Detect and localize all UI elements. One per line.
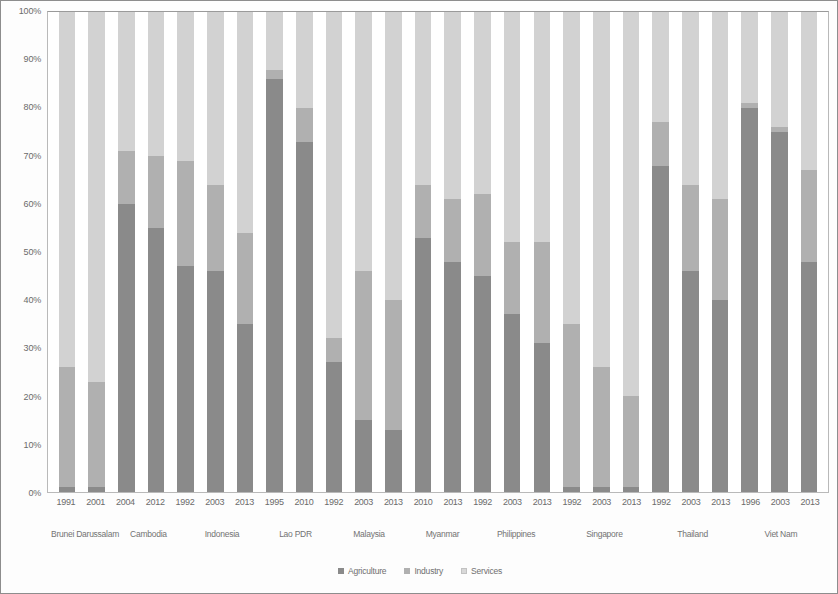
bar-segment-industry[interactable] bbox=[237, 233, 254, 324]
bar-segment-industry[interactable] bbox=[118, 151, 135, 204]
stacked-bar[interactable] bbox=[801, 12, 818, 492]
bar-segment-services[interactable] bbox=[207, 12, 224, 185]
bar-segment-services[interactable] bbox=[444, 12, 461, 199]
bar-segment-services[interactable] bbox=[237, 12, 254, 233]
bar-segment-agriculture[interactable] bbox=[237, 324, 254, 492]
bar-segment-industry[interactable] bbox=[296, 108, 313, 142]
bar-segment-industry[interactable] bbox=[563, 324, 580, 487]
bar-segment-services[interactable] bbox=[652, 12, 669, 122]
bar-segment-services[interactable] bbox=[474, 12, 491, 194]
bar-segment-agriculture[interactable] bbox=[563, 487, 580, 492]
bar-segment-agriculture[interactable] bbox=[652, 166, 669, 492]
stacked-bar[interactable] bbox=[59, 12, 76, 492]
stacked-bar[interactable] bbox=[474, 12, 491, 492]
bar-segment-agriculture[interactable] bbox=[534, 343, 551, 492]
bar-segment-industry[interactable] bbox=[59, 367, 76, 487]
bar-segment-agriculture[interactable] bbox=[296, 142, 313, 492]
bar-segment-services[interactable] bbox=[355, 12, 372, 271]
bar-segment-agriculture[interactable] bbox=[266, 79, 283, 492]
bar-segment-industry[interactable] bbox=[652, 122, 669, 165]
bar-segment-industry[interactable] bbox=[444, 199, 461, 261]
bar-segment-agriculture[interactable] bbox=[712, 300, 729, 492]
stacked-bar[interactable] bbox=[563, 12, 580, 492]
bar-segment-agriculture[interactable] bbox=[59, 487, 76, 492]
bar-segment-industry[interactable] bbox=[148, 156, 165, 228]
stacked-bar[interactable] bbox=[207, 12, 224, 492]
bar-segment-agriculture[interactable] bbox=[385, 430, 402, 492]
bar-segment-agriculture[interactable] bbox=[148, 228, 165, 492]
legend-item-industry[interactable]: Industry bbox=[404, 566, 443, 576]
bar-segment-services[interactable] bbox=[88, 12, 105, 382]
legend-item-services[interactable]: Services bbox=[461, 566, 502, 576]
bar-segment-services[interactable] bbox=[712, 12, 729, 199]
bar-segment-industry[interactable] bbox=[415, 185, 432, 238]
bar-segment-services[interactable] bbox=[504, 12, 521, 242]
stacked-bar[interactable] bbox=[148, 12, 165, 492]
bar-segment-industry[interactable] bbox=[623, 396, 640, 487]
bar-segment-industry[interactable] bbox=[682, 185, 699, 271]
bar-segment-agriculture[interactable] bbox=[504, 314, 521, 492]
bar-segment-agriculture[interactable] bbox=[682, 271, 699, 492]
stacked-bar[interactable] bbox=[741, 12, 758, 492]
bar-segment-services[interactable] bbox=[296, 12, 313, 108]
bar-segment-industry[interactable] bbox=[355, 271, 372, 420]
stacked-bar[interactable] bbox=[237, 12, 254, 492]
bar-segment-services[interactable] bbox=[59, 12, 76, 367]
stacked-bar[interactable] bbox=[326, 12, 343, 492]
stacked-bar[interactable] bbox=[534, 12, 551, 492]
stacked-bar[interactable] bbox=[504, 12, 521, 492]
bar-segment-services[interactable] bbox=[177, 12, 194, 161]
bar-segment-agriculture[interactable] bbox=[118, 204, 135, 492]
bar-segment-industry[interactable] bbox=[385, 300, 402, 430]
bar-segment-services[interactable] bbox=[593, 12, 610, 367]
bar-segment-services[interactable] bbox=[771, 12, 788, 127]
bar-segment-industry[interactable] bbox=[712, 199, 729, 300]
bar-segment-agriculture[interactable] bbox=[801, 262, 818, 492]
bar-segment-services[interactable] bbox=[682, 12, 699, 185]
stacked-bar[interactable] bbox=[623, 12, 640, 492]
stacked-bar[interactable] bbox=[118, 12, 135, 492]
stacked-bar[interactable] bbox=[771, 12, 788, 492]
bar-segment-industry[interactable] bbox=[266, 70, 283, 80]
bar-segment-industry[interactable] bbox=[207, 185, 224, 271]
bar-segment-services[interactable] bbox=[266, 12, 283, 70]
bar-segment-services[interactable] bbox=[118, 12, 135, 151]
stacked-bar[interactable] bbox=[266, 12, 283, 492]
bar-segment-agriculture[interactable] bbox=[415, 238, 432, 492]
stacked-bar[interactable] bbox=[88, 12, 105, 492]
bar-segment-agriculture[interactable] bbox=[355, 420, 372, 492]
bar-segment-services[interactable] bbox=[563, 12, 580, 324]
bar-segment-services[interactable] bbox=[623, 12, 640, 396]
stacked-bar[interactable] bbox=[593, 12, 610, 492]
bar-segment-services[interactable] bbox=[534, 12, 551, 242]
legend-item-agriculture[interactable]: Agriculture bbox=[338, 566, 386, 576]
bar-segment-industry[interactable] bbox=[326, 338, 343, 362]
bar-segment-agriculture[interactable] bbox=[474, 276, 491, 492]
bar-segment-agriculture[interactable] bbox=[593, 487, 610, 492]
bar-segment-industry[interactable] bbox=[801, 170, 818, 261]
bar-segment-agriculture[interactable] bbox=[623, 487, 640, 492]
bar-segment-services[interactable] bbox=[801, 12, 818, 170]
stacked-bar[interactable] bbox=[177, 12, 194, 492]
bar-segment-services[interactable] bbox=[148, 12, 165, 156]
bar-segment-agriculture[interactable] bbox=[88, 487, 105, 492]
bar-segment-services[interactable] bbox=[385, 12, 402, 300]
stacked-bar[interactable] bbox=[712, 12, 729, 492]
bar-segment-agriculture[interactable] bbox=[326, 362, 343, 492]
stacked-bar[interactable] bbox=[415, 12, 432, 492]
stacked-bar[interactable] bbox=[385, 12, 402, 492]
bar-segment-agriculture[interactable] bbox=[207, 271, 224, 492]
bar-segment-agriculture[interactable] bbox=[177, 266, 194, 492]
bar-segment-industry[interactable] bbox=[177, 161, 194, 267]
bar-segment-industry[interactable] bbox=[504, 242, 521, 314]
bar-segment-industry[interactable] bbox=[593, 367, 610, 487]
bar-segment-agriculture[interactable] bbox=[771, 132, 788, 492]
bar-segment-agriculture[interactable] bbox=[741, 108, 758, 492]
bar-segment-services[interactable] bbox=[741, 12, 758, 103]
stacked-bar[interactable] bbox=[444, 12, 461, 492]
bar-segment-industry[interactable] bbox=[474, 194, 491, 276]
stacked-bar[interactable] bbox=[355, 12, 372, 492]
bar-segment-industry[interactable] bbox=[88, 382, 105, 488]
bar-segment-industry[interactable] bbox=[534, 242, 551, 343]
bar-segment-agriculture[interactable] bbox=[444, 262, 461, 492]
